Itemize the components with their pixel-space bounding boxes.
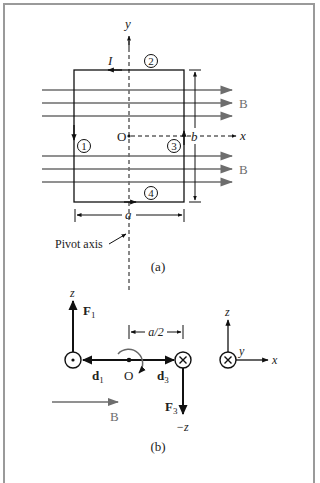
svg-text:1: 1	[81, 140, 87, 152]
d1-label: d1	[92, 368, 104, 385]
field-label-upper: B	[239, 96, 248, 111]
segment-2: 2	[145, 55, 158, 68]
caption-a: (a)	[151, 259, 165, 274]
segment-3: 3	[168, 140, 181, 153]
legend-y-label: y	[238, 344, 245, 358]
current-label: I	[107, 53, 113, 68]
figure-b: z F1 d1 O d3 a/2 F3 −z B z	[52, 286, 278, 454]
b-label: b	[191, 129, 198, 144]
field-label-b: B	[110, 409, 119, 424]
neg-z-label: −z	[176, 420, 189, 434]
a-label: a	[125, 207, 132, 222]
origin-label: O	[117, 129, 126, 144]
legend-z-label: z	[224, 305, 230, 319]
axis-legend: z x y	[220, 305, 278, 368]
field-lines-lower	[42, 156, 232, 182]
z-label: z	[69, 286, 75, 300]
current-out-dot	[71, 358, 74, 361]
segment-4: 4	[145, 187, 158, 200]
field-label-lower: B	[239, 162, 248, 177]
svg-text:4: 4	[148, 187, 154, 199]
origin-b-label: O	[124, 368, 133, 383]
origin-b-dot	[127, 358, 132, 363]
force-1-label: F1	[83, 303, 95, 320]
force-3-label: F3	[165, 399, 178, 416]
d3-label: d3	[157, 368, 169, 385]
y-axis-label: y	[123, 16, 131, 31]
pivot-axis-label: Pivot axis	[55, 237, 103, 251]
x-axis-label: x	[239, 128, 246, 143]
svg-text:3: 3	[171, 140, 177, 152]
caption-b: (b)	[150, 439, 165, 454]
figure-a: y B B I 2 1	[42, 16, 248, 290]
half-a-label: a/2	[148, 325, 163, 339]
segment-1: 1	[78, 140, 91, 153]
legend-x-label: x	[271, 353, 278, 367]
field-lines-upper	[42, 90, 232, 116]
pivot-pointer	[109, 234, 126, 244]
origin-dot	[127, 134, 130, 137]
svg-text:2: 2	[148, 55, 154, 67]
